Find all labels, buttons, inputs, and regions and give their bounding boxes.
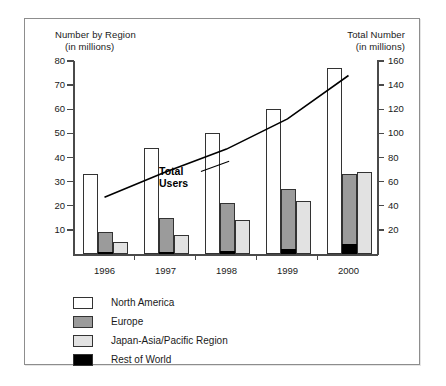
right-axis-tick bbox=[377, 84, 384, 85]
x-axis-tick bbox=[195, 255, 196, 260]
x-axis-tick-label: 1998 bbox=[202, 265, 252, 276]
total-users-annotation-line1: Total bbox=[159, 165, 188, 177]
right-axis-tick-label: 140 bbox=[388, 80, 404, 90]
total-users-annotation: Total Users bbox=[159, 165, 188, 189]
x-axis-tick-label: 1996 bbox=[80, 265, 130, 276]
legend-swatch-rest-of-world bbox=[73, 354, 93, 366]
right-axis-tick-label: 80 bbox=[388, 153, 399, 163]
legend-item-label: Europe bbox=[111, 316, 143, 327]
x-axis-baseline bbox=[73, 254, 378, 256]
legend-item: Rest of World bbox=[73, 350, 373, 369]
legend-swatch-europe bbox=[73, 316, 93, 328]
left-axis-tick-label: 70 bbox=[43, 80, 65, 90]
right-axis-tick bbox=[377, 133, 384, 134]
right-axis-tick-label: 100 bbox=[388, 128, 404, 138]
legend-item-label: North America bbox=[111, 297, 174, 308]
plot-area: 1020304050607080 20406080100120140160 19… bbox=[25, 19, 419, 364]
chart-figure: Number by Region (in millions) Total Num… bbox=[24, 18, 420, 365]
total-users-line bbox=[73, 61, 378, 254]
right-axis-tick bbox=[377, 229, 384, 230]
left-axis-tick-label: 80 bbox=[43, 56, 65, 66]
legend-item: Japan-Asia/Pacific Region bbox=[73, 331, 373, 350]
legend-item-label: Japan-Asia/Pacific Region bbox=[111, 335, 228, 346]
right-axis-tick-label: 40 bbox=[388, 201, 399, 211]
x-axis-tick-label: 1999 bbox=[263, 265, 313, 276]
right-axis-tick bbox=[377, 60, 384, 61]
right-axis-tick-label: 60 bbox=[388, 177, 399, 187]
right-axis-tick bbox=[377, 109, 384, 110]
x-axis-tick bbox=[134, 255, 135, 260]
left-axis-tick-label: 20 bbox=[43, 201, 65, 211]
right-axis-tick-label: 160 bbox=[388, 56, 404, 66]
right-axis-tick bbox=[377, 157, 384, 158]
legend-swatch-north-america bbox=[73, 297, 93, 309]
legend-item: North America bbox=[73, 293, 373, 312]
left-axis-tick-label: 40 bbox=[43, 153, 65, 163]
right-axis-tick-label: 20 bbox=[388, 225, 399, 235]
legend-swatch-japan-asia-pacific bbox=[73, 335, 93, 347]
left-axis-tick-label: 10 bbox=[43, 225, 65, 235]
chart-legend: North AmericaEuropeJapan-Asia/Pacific Re… bbox=[73, 293, 373, 369]
legend-item: Europe bbox=[73, 312, 373, 331]
x-axis-tick-label: 1997 bbox=[141, 265, 191, 276]
legend-item-label: Rest of World bbox=[111, 354, 171, 365]
right-axis-tick bbox=[377, 205, 384, 206]
x-axis-tick-label: 2000 bbox=[324, 265, 374, 276]
x-axis-tick bbox=[317, 255, 318, 260]
total-users-annotation-line2: Users bbox=[159, 177, 188, 189]
left-axis-tick-label: 50 bbox=[43, 128, 65, 138]
left-axis-tick-label: 60 bbox=[43, 104, 65, 114]
right-axis-tick bbox=[377, 181, 384, 182]
x-axis-tick bbox=[256, 255, 257, 260]
left-axis-tick-label: 30 bbox=[43, 177, 65, 187]
right-axis-tick-label: 120 bbox=[388, 104, 404, 114]
